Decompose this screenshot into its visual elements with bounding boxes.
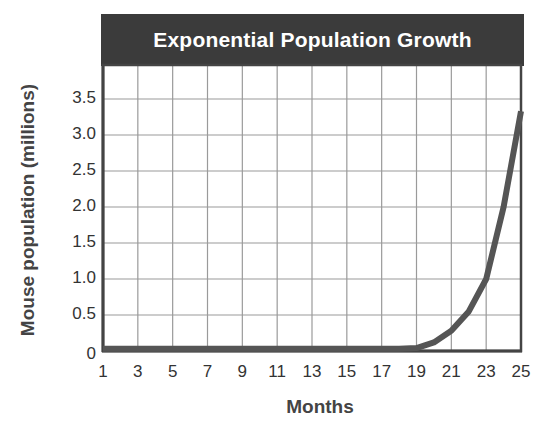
y-tick-label: 3.0	[56, 124, 96, 144]
grid-lines	[103, 65, 521, 351]
y-tick-label: 2.5	[56, 160, 96, 180]
x-tick-label: 25	[506, 362, 536, 382]
x-tick-label: 19	[402, 362, 432, 382]
x-tick-label: 21	[436, 362, 466, 382]
x-axis-label: Months	[220, 396, 420, 418]
x-tick-label: 5	[158, 362, 188, 382]
y-tick-label: 3.5	[56, 88, 96, 108]
x-tick-label: 15	[332, 362, 362, 382]
x-tick-label: 1	[88, 362, 118, 382]
x-tick-label: 13	[297, 362, 327, 382]
y-tick-label: 0.5	[56, 304, 96, 324]
x-tick-label: 17	[367, 362, 397, 382]
x-tick-label: 7	[193, 362, 223, 382]
x-tick-label: 9	[227, 362, 257, 382]
x-tick-label: 3	[123, 362, 153, 382]
x-tick-label: 23	[471, 362, 501, 382]
y-tick-label: 2.0	[56, 196, 96, 216]
y-axis-label: Mouse population (millions)	[17, 60, 47, 360]
y-tick-label: 1.0	[56, 268, 96, 288]
y-tick-label: 1.5	[56, 232, 96, 252]
x-tick-label: 11	[262, 362, 292, 382]
y-tick-label: 0	[56, 344, 96, 364]
